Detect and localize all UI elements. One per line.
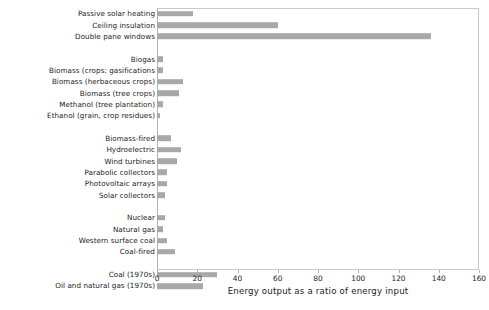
- bar: [157, 34, 431, 40]
- bar-row: Biomass (herbaceous crops): [0, 76, 489, 87]
- x-tick: [318, 270, 319, 273]
- bar-track: [157, 170, 167, 176]
- bar-row: Ceiling insulation: [0, 19, 489, 30]
- x-tick: [157, 270, 158, 273]
- bar: [157, 136, 171, 142]
- bar-track: [157, 79, 183, 85]
- bar-row-spacer: [0, 42, 489, 53]
- bar-label: Passive solar heating: [5, 9, 155, 18]
- bar-label: Biomass (herbaceous crops): [5, 77, 155, 86]
- bar-track: [157, 192, 165, 198]
- bar-chart: Passive solar heatingCeiling insulationD…: [0, 0, 489, 310]
- bar-label: Wind turbines: [5, 157, 155, 166]
- bar-track: [157, 68, 163, 74]
- bar: [157, 226, 163, 232]
- bar-row-spacer: [0, 258, 489, 269]
- bar-rows-container: Passive solar heatingCeiling insulationD…: [0, 8, 489, 270]
- x-tick-label: 140: [432, 274, 446, 283]
- x-tick-label: 60: [273, 274, 282, 283]
- x-tick-label: 0: [155, 274, 160, 283]
- bar-row: Double pane windows: [0, 31, 489, 42]
- bar-row: Biomass (tree crops): [0, 87, 489, 98]
- x-tick-label: 80: [313, 274, 322, 283]
- bar-row: Coal-fired: [0, 246, 489, 257]
- bar-track: [157, 158, 177, 164]
- bar-row-spacer: [0, 201, 489, 212]
- bar: [157, 56, 163, 62]
- x-tick: [399, 270, 400, 273]
- bar: [157, 215, 165, 221]
- x-tick: [479, 270, 480, 273]
- bar-label: Double pane windows: [5, 32, 155, 41]
- bar-label: Photovoltaic arrays: [5, 179, 155, 188]
- bar: [157, 22, 278, 28]
- bar-label: Hydroelectric: [5, 145, 155, 154]
- bar-row: Photovoltaic arrays: [0, 178, 489, 189]
- bar-label: Solar collectors: [5, 191, 155, 200]
- x-tick-label: 160: [472, 274, 486, 283]
- x-tick-label: 120: [391, 274, 405, 283]
- bar-row: Biogas: [0, 53, 489, 64]
- bar-row: Wind turbines: [0, 155, 489, 166]
- x-axis-title: Energy output as a ratio of energy input: [157, 286, 479, 296]
- bar: [157, 147, 181, 153]
- bar-track: [157, 102, 163, 108]
- bar: [157, 238, 167, 244]
- bar-track: [157, 215, 165, 221]
- bar-track: [157, 226, 163, 232]
- bar: [157, 170, 167, 176]
- bar-label: Biomass (tree crops): [5, 89, 155, 98]
- bar-label: Biomass-fired: [5, 134, 155, 143]
- bar-row: Hydroelectric: [0, 144, 489, 155]
- x-tick-label: 40: [233, 274, 242, 283]
- x-axis: Energy output as a ratio of energy input…: [0, 270, 489, 310]
- bar-label: Biogas: [5, 55, 155, 64]
- bar-label: Coal-fired: [5, 247, 155, 256]
- bar: [157, 68, 163, 74]
- bar-row: Biomass (crops: gasifications: [0, 65, 489, 76]
- bar-row: Methanol (tree plantation): [0, 99, 489, 110]
- bar: [157, 79, 183, 85]
- bar-track: [157, 11, 193, 17]
- bar-row: Natural gas: [0, 224, 489, 235]
- x-tick: [238, 270, 239, 273]
- bar-row: Biomass-fired: [0, 133, 489, 144]
- bar-track: [157, 181, 167, 187]
- bar-track: [157, 136, 171, 142]
- bar: [157, 113, 160, 119]
- bar-label: Natural gas: [5, 225, 155, 234]
- bar-row: Parabolic collectors: [0, 167, 489, 178]
- x-tick-label: 100: [351, 274, 365, 283]
- bar: [157, 181, 167, 187]
- bar-row-spacer: [0, 121, 489, 132]
- x-tick: [197, 270, 198, 273]
- bar-track: [157, 34, 431, 40]
- bar-track: [157, 22, 278, 28]
- x-tick-label: 20: [193, 274, 202, 283]
- x-tick: [358, 270, 359, 273]
- bar-label: Biomass (crops: gasifications: [5, 66, 155, 75]
- bar-label: Nuclear: [5, 213, 155, 222]
- bar: [157, 192, 165, 198]
- bar: [157, 158, 177, 164]
- x-tick: [278, 270, 279, 273]
- bar-label: Parabolic collectors: [5, 168, 155, 177]
- bar-label: Western surface coal: [5, 236, 155, 245]
- bar-row: Western surface coal: [0, 235, 489, 246]
- bar-track: [157, 56, 163, 62]
- bar-row: Nuclear: [0, 212, 489, 223]
- bar-track: [157, 90, 179, 96]
- bar-label: Ceiling insulation: [5, 21, 155, 30]
- x-tick: [439, 270, 440, 273]
- bar-track: [157, 113, 160, 119]
- bar-row: Solar collectors: [0, 190, 489, 201]
- bar: [157, 249, 175, 255]
- bar: [157, 90, 179, 96]
- bar-label: Methanol (tree plantation): [5, 100, 155, 109]
- bar-track: [157, 238, 167, 244]
- bar: [157, 11, 193, 17]
- bar-label: Ethanol (grain, crop residues): [5, 111, 155, 120]
- bar-row: Passive solar heating: [0, 8, 489, 19]
- bar: [157, 102, 163, 108]
- bar-track: [157, 147, 181, 153]
